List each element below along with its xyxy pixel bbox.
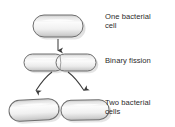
arrow-separation-group — [36, 72, 84, 91]
arrow-separation-right — [68, 72, 84, 91]
parent-cell — [33, 15, 83, 37]
stage-one-cell-group — [33, 15, 86, 40]
stage-two-cells-group — [8, 98, 111, 124]
diagram-canvas: One bacterial cell Binary fission Two ba… — [0, 0, 175, 127]
arrow-separation-left — [36, 72, 52, 91]
daughter-cell-right — [61, 99, 109, 120]
label-two-bacterial-cells: Two bacterial cells — [105, 99, 150, 116]
label-one-bacterial-cell: One bacterial cell — [105, 13, 151, 30]
stage-binary-fission-group — [24, 54, 98, 73]
dividing-cell-right — [56, 54, 96, 71]
daughter-cell-left — [8, 98, 59, 122]
label-binary-fission: Binary fission — [105, 57, 151, 66]
